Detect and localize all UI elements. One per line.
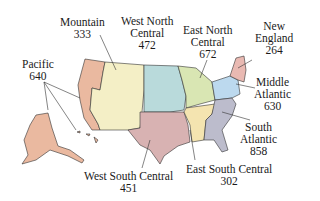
label-new-england: New England 264	[255, 20, 293, 56]
region-pacific-hawaii[interactable]	[77, 131, 98, 143]
label-mountain: Mountain 333	[60, 16, 105, 40]
label-south-atlantic: South Atlantic 858	[240, 121, 277, 157]
label-pacific: Pacific 640	[22, 58, 54, 82]
label-west-south-central: West South Central 451	[84, 170, 173, 194]
label-middle-atlantic: Middle Atlantic 630	[254, 76, 291, 112]
label-east-north-central: East North Central 672	[183, 24, 233, 60]
label-east-south-central: East South Central 302	[186, 163, 272, 187]
label-west-north-central: West North Central 472	[121, 15, 173, 51]
region-middle-atlantic[interactable]	[212, 76, 240, 100]
region-pacific-alaska[interactable]	[22, 113, 84, 164]
